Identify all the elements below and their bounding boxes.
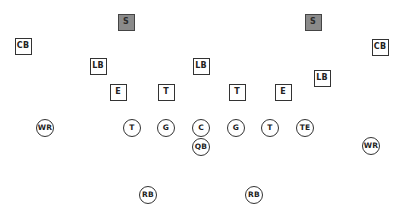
defense-linebacker-middle: LB	[193, 58, 210, 75]
offense-wide-receiver-left: WR	[36, 119, 54, 137]
defense-end-right: E	[275, 84, 292, 101]
offense-guard-left: G	[157, 119, 175, 137]
formation-diagram: S S CB CB LB LB LB E T T E WR T G C G T …	[0, 0, 402, 216]
offense-quarterback: QB	[192, 138, 210, 156]
offense-guard-right: G	[227, 119, 245, 137]
offense-running-back-right: RB	[245, 186, 263, 204]
defense-cornerback-left: CB	[15, 38, 32, 55]
offense-wide-receiver-right: WR	[362, 137, 380, 155]
offense-tackle-left: T	[123, 119, 141, 137]
offense-tackle-right: T	[261, 119, 279, 137]
defense-safety-left: S	[118, 14, 135, 31]
defense-linebacker-right: LB	[314, 70, 331, 87]
offense-running-back-left: RB	[139, 186, 157, 204]
defense-tackle-right: T	[229, 84, 246, 101]
defense-safety-right: S	[305, 14, 322, 31]
defense-linebacker-left: LB	[90, 58, 107, 75]
offense-center: C	[192, 119, 210, 137]
defense-cornerback-right: CB	[372, 39, 389, 56]
defense-tackle-left: T	[158, 84, 175, 101]
offense-tight-end: TE	[296, 119, 314, 137]
defense-end-left: E	[110, 84, 127, 101]
